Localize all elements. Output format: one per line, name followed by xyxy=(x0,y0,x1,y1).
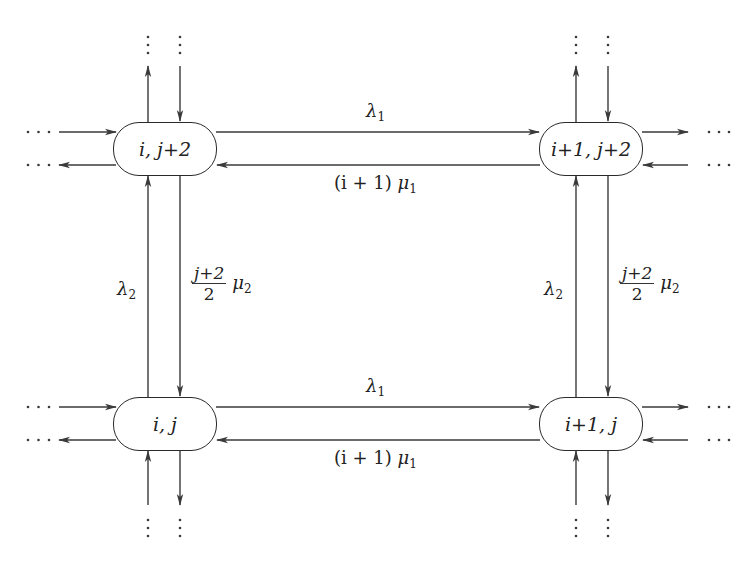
state-node-i-plus-1-j-plus-2: i+1, j+2 xyxy=(539,122,643,176)
rate-label-mu1-bottom: (i + 1) μ1 xyxy=(334,447,417,471)
rate-label-mu2-right: j+2 2 μ2 xyxy=(620,263,680,304)
rate-label-lambda1-bottom: λ1 xyxy=(366,375,385,399)
node-label: i, j xyxy=(153,413,177,435)
node-label: i, j+2 xyxy=(139,138,191,160)
node-label: i+1, j+2 xyxy=(551,138,631,160)
rate-label-lambda2-right: λ2 xyxy=(544,278,563,302)
rate-label-lambda1-top: λ1 xyxy=(366,100,385,124)
rate-label-lambda2-left: λ2 xyxy=(117,278,136,302)
rate-label-mu1-top: (i + 1) μ1 xyxy=(334,172,417,196)
state-node-i-j: i, j xyxy=(113,397,217,451)
state-node-i-j-plus-2: i, j+2 xyxy=(113,122,217,176)
node-label: i+1, j xyxy=(565,413,617,435)
state-node-i-plus-1-j: i+1, j xyxy=(539,397,643,451)
rate-label-mu2-left: j+2 2 μ2 xyxy=(192,263,252,304)
